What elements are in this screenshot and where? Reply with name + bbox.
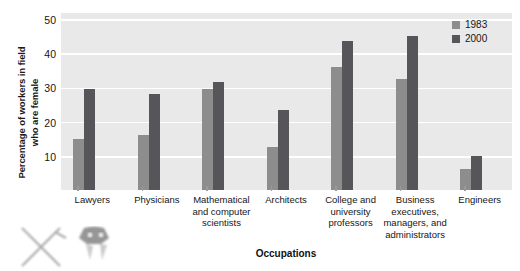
category-label-line: and computer	[182, 206, 261, 218]
bar-1983	[331, 67, 342, 190]
bar-1983	[202, 89, 213, 190]
bar-2000	[471, 156, 482, 190]
x-axis-tick-marks	[60, 186, 512, 192]
bar-2000	[278, 110, 289, 190]
x-axis-category-labels: LawyersPhysiciansMathematicaland compute…	[60, 194, 512, 246]
bar-2000	[342, 41, 353, 190]
category-label-line: Engineers	[440, 194, 519, 206]
legend-item-2000[interactable]: 2000	[452, 33, 487, 45]
bar-group	[384, 13, 449, 190]
category-label-line: scientists	[182, 217, 261, 229]
x-axis-tick	[464, 186, 466, 191]
legend: 19832000	[452, 19, 487, 47]
legend-item-1983[interactable]: 1983	[452, 19, 487, 31]
x-axis-tick	[206, 186, 208, 191]
y-axis-tick-label: 40	[32, 49, 56, 59]
category-label-line: executives,	[376, 206, 455, 218]
bar-1983	[396, 79, 407, 190]
bar-2000	[84, 89, 95, 190]
bar-group	[126, 13, 191, 190]
y-axis-tick-labels: 1020304050	[30, 0, 56, 271]
category-label-line: administrators	[376, 229, 455, 241]
bar-2000	[149, 94, 160, 190]
x-axis-tick	[271, 186, 273, 191]
y-axis-title-line-1: Percentage of workers in field	[16, 23, 29, 203]
y-axis-tick-label: 30	[32, 83, 56, 93]
legend-label: 2000	[465, 34, 487, 44]
bar-group	[255, 13, 320, 190]
legend-swatch-icon	[452, 35, 460, 43]
bar-1983	[73, 139, 84, 190]
bar-group	[190, 13, 255, 190]
bar-1983	[138, 135, 149, 190]
plot-inner	[61, 13, 512, 190]
bar-1983	[267, 147, 278, 190]
category-label-line: managers, and	[376, 217, 455, 229]
x-axis-title: Occupations	[60, 248, 512, 259]
x-axis-category-label: Engineers	[440, 194, 519, 206]
bar-chart: Percentage of workers in field who are f…	[0, 0, 520, 271]
x-axis-tick	[77, 186, 79, 191]
x-axis-tick	[335, 186, 337, 191]
plot-area	[60, 13, 512, 191]
bar-2000	[407, 36, 418, 190]
legend-swatch-icon	[452, 21, 460, 29]
y-axis-tick-label: 50	[32, 15, 56, 25]
bar-2000	[213, 82, 224, 190]
legend-label: 1983	[465, 20, 487, 30]
y-axis-tick-label: 20	[32, 118, 56, 128]
x-axis-tick	[142, 186, 144, 191]
y-axis-tick-label: 10	[32, 152, 56, 162]
x-axis-tick	[400, 186, 402, 191]
bar-group	[319, 13, 384, 190]
bar-group	[61, 13, 126, 190]
